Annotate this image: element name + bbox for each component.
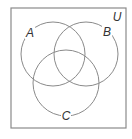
set-b-label: B bbox=[103, 25, 111, 39]
set-a-label: A bbox=[25, 26, 34, 40]
universe-label: U bbox=[113, 10, 122, 24]
set-c-label: C bbox=[62, 109, 71, 123]
venn-diagram: U A B C bbox=[0, 0, 132, 139]
